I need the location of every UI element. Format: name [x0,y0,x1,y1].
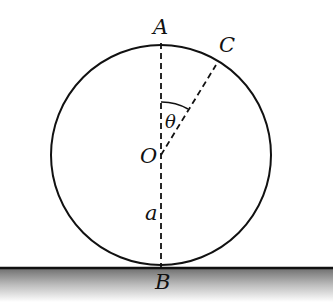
label-B: B [154,270,170,294]
circle-diagram: A C θ O a B [0,0,333,302]
label-O: O [140,144,157,168]
angle-arc [161,102,188,109]
label-C: C [219,33,235,57]
label-theta: θ [165,111,176,132]
radius-OC [161,65,216,155]
diagram-canvas: A C θ O a B [0,0,333,302]
label-A: A [151,15,168,39]
label-a: a [145,201,158,225]
